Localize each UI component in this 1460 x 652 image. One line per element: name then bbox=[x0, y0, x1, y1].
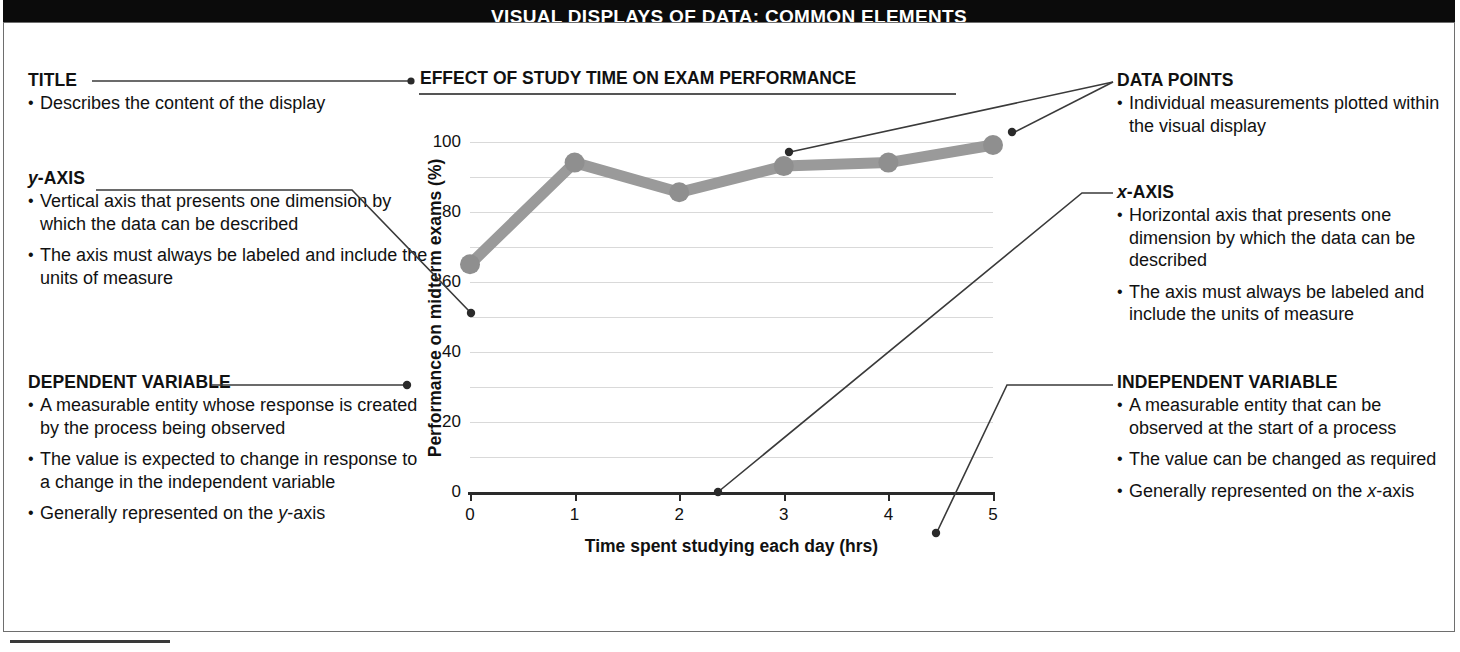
bullet-dot: • bbox=[1117, 394, 1129, 439]
bullet-text: The axis must always be labeled and incl… bbox=[40, 244, 428, 289]
bullet-text: Describes the content of the display bbox=[40, 92, 428, 115]
plot-area: 020406080100 012345 Performance on midte… bbox=[470, 124, 993, 492]
data-point-marker bbox=[669, 182, 689, 202]
bullet-text: The axis must always be labeled and incl… bbox=[1129, 281, 1447, 326]
bullet-text: The value is expected to change in respo… bbox=[40, 448, 428, 493]
annotation-dependent-variable: DEPENDENT VARIABLE • A measurable entity… bbox=[28, 372, 428, 525]
data-point-marker bbox=[565, 153, 585, 173]
x-tick bbox=[470, 492, 472, 501]
annotation-title-heading: TITLE bbox=[28, 70, 428, 90]
bullet-dot: • bbox=[1117, 448, 1129, 471]
bullet-text: Generally represented on the x-axis bbox=[1129, 480, 1447, 503]
bullet-item: • The value is expected to change in res… bbox=[28, 448, 428, 493]
bullet-item: • A measurable entity whose response is … bbox=[28, 394, 428, 439]
heading-rest: -AXIS bbox=[1127, 182, 1174, 202]
x-tick-label: 5 bbox=[988, 505, 997, 525]
data-point-marker bbox=[983, 135, 1003, 155]
x-tick bbox=[993, 492, 995, 501]
series-line bbox=[470, 145, 993, 264]
inline-italic-x: x bbox=[1367, 481, 1376, 501]
annotation-independent-variable: INDEPENDENT VARIABLE • A measurable enti… bbox=[1117, 372, 1447, 502]
x-tick-label: 4 bbox=[884, 505, 893, 525]
data-point-marker bbox=[460, 254, 480, 274]
chart-title: EFFECT OF STUDY TIME ON EXAM PERFORMANCE bbox=[420, 68, 856, 89]
bullet-dot: • bbox=[28, 394, 40, 439]
bullet-item: • The axis must always be labeled and in… bbox=[28, 244, 428, 289]
x-tick bbox=[575, 492, 577, 501]
chart-title-rule bbox=[419, 93, 956, 95]
x-tick-label: 3 bbox=[779, 505, 788, 525]
bullet-item: • A measurable entity that can be observ… bbox=[1117, 394, 1447, 439]
x-tick-label: 2 bbox=[674, 505, 683, 525]
bullet-text: The value can be changed as required bbox=[1129, 448, 1447, 471]
bullet-text: Individual measurements plotted within t… bbox=[1129, 92, 1447, 137]
x-axis-line bbox=[468, 492, 995, 495]
bullet-dot: • bbox=[28, 244, 40, 289]
annotation-data-points: DATA POINTS • Individual measurements pl… bbox=[1117, 70, 1447, 137]
bullet-item: • The value can be changed as required bbox=[1117, 448, 1447, 471]
bullet-text: Horizontal axis that presents one dimens… bbox=[1129, 204, 1447, 272]
bullet-dot: • bbox=[1117, 480, 1129, 503]
annotation-title: TITLE • Describes the content of the dis… bbox=[28, 70, 428, 115]
bullet-item: • Generally represented on the y-axis bbox=[28, 502, 428, 525]
heading-rest: -AXIS bbox=[38, 168, 85, 188]
bullet-text: A measurable entity that can be observed… bbox=[1129, 394, 1447, 439]
annotation-x-axis-heading: x-AXIS bbox=[1117, 182, 1447, 202]
bullet-item: • Generally represented on the x-axis bbox=[1117, 480, 1447, 503]
bullet-dot: • bbox=[1117, 281, 1129, 326]
y-axis-title: Performance on midterm exams (%) bbox=[425, 159, 446, 458]
y-tick-label: 0 bbox=[452, 482, 461, 502]
bullet-item: • Vertical axis that presents one dimens… bbox=[28, 190, 428, 235]
x-tick-label: 1 bbox=[570, 505, 579, 525]
annotation-independent-variable-heading: INDEPENDENT VARIABLE bbox=[1117, 372, 1447, 392]
chart: EFFECT OF STUDY TIME ON EXAM PERFORMANCE… bbox=[407, 68, 1087, 538]
data-point-marker bbox=[878, 153, 898, 173]
bullet-item: • Individual measurements plotted within… bbox=[1117, 92, 1447, 137]
x-tick bbox=[679, 492, 681, 501]
heading-italic-letter: x bbox=[1117, 182, 1127, 202]
bullet-text: Generally represented on the y-axis bbox=[40, 502, 428, 525]
bullet-text: Vertical axis that presents one dimensio… bbox=[40, 190, 428, 235]
annotation-y-axis-heading: y-AXIS bbox=[28, 168, 428, 188]
x-tick-label: 0 bbox=[465, 505, 474, 525]
annotation-dependent-variable-heading: DEPENDENT VARIABLE bbox=[28, 372, 428, 392]
bullet-dot: • bbox=[28, 448, 40, 493]
scan-artifact-line bbox=[10, 640, 170, 643]
inline-italic-y: y bbox=[278, 503, 287, 523]
bullet-dot: • bbox=[28, 190, 40, 235]
bullet-item: • Horizontal axis that presents one dime… bbox=[1117, 204, 1447, 272]
x-axis-title: Time spent studying each day (hrs) bbox=[470, 536, 993, 557]
data-point-marker bbox=[774, 156, 794, 176]
bullet-dot: • bbox=[28, 92, 40, 115]
annotation-x-axis: x-AXIS • Horizontal axis that presents o… bbox=[1117, 182, 1447, 326]
bullet-dot: • bbox=[28, 502, 40, 525]
data-series bbox=[470, 124, 993, 492]
y-tick-label: 100 bbox=[433, 132, 461, 152]
annotation-y-axis: y-AXIS • Vertical axis that presents one… bbox=[28, 168, 428, 289]
bullet-dot: • bbox=[1117, 92, 1129, 137]
bullet-item: • The axis must always be labeled and in… bbox=[1117, 281, 1447, 326]
bullet-text: A measurable entity whose response is cr… bbox=[40, 394, 428, 439]
annotation-data-points-heading: DATA POINTS bbox=[1117, 70, 1447, 90]
x-tick bbox=[784, 492, 786, 501]
bullet-item: • Describes the content of the display bbox=[28, 92, 428, 115]
heading-italic-letter: y bbox=[28, 168, 38, 188]
x-tick bbox=[888, 492, 890, 501]
bullet-dot: • bbox=[1117, 204, 1129, 272]
